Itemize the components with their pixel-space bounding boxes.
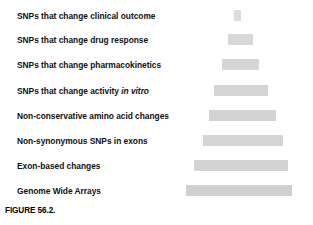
funnel-row-label-text: Non-conservative amino acid changes: [17, 111, 169, 121]
funnel-bar: [228, 34, 253, 45]
funnel-bar: [186, 185, 292, 196]
funnel-row-label: Exon-based changes: [17, 155, 100, 177]
funnel-row-label: SNPs that change clinical outcome: [17, 5, 156, 27]
funnel-row-label-text: Genome Wide Arrays: [17, 186, 101, 196]
figure-caption: FIGURE 56.2.: [5, 204, 55, 215]
funnel-row: Non-conservative amino acid changes: [0, 105, 313, 127]
funnel-row-label: SNPs that change activity in vitro: [17, 80, 149, 102]
funnel-row-label: SNPs that change drug response: [17, 29, 148, 51]
funnel-row: Exon-based changes: [0, 155, 313, 177]
funnel-row: Non-synonymous SNPs in exons: [0, 130, 313, 152]
funnel-bar: [203, 135, 283, 146]
funnel-row-label: Non-synonymous SNPs in exons: [17, 130, 148, 152]
figure-56-2: SNPs that change clinical outcome SNPs t…: [0, 0, 313, 225]
funnel-row-label: Genome Wide Arrays: [17, 180, 101, 202]
funnel-row-label: Non-conservative amino acid changes: [17, 105, 169, 127]
funnel-row-label-text: SNPs that change pharmacokinetics: [17, 60, 161, 70]
funnel-row-label: SNPs that change pharmacokinetics: [17, 54, 161, 76]
funnel-bar: [234, 10, 241, 21]
funnel-row-label-emphasis: in vitro: [121, 86, 149, 96]
funnel-row: SNPs that change activity in vitro: [0, 80, 313, 102]
funnel-row-label-text: SNPs that change clinical outcome: [17, 11, 156, 21]
funnel-bar: [222, 59, 259, 70]
funnel-row-label-text: Non-synonymous SNPs in exons: [17, 136, 148, 146]
funnel-row: SNPs that change pharmacokinetics: [0, 54, 313, 76]
funnel-bar: [209, 110, 276, 121]
funnel-row-label-text: SNPs that change drug response: [17, 35, 148, 45]
funnel-row: SNPs that change clinical outcome: [0, 5, 313, 27]
funnel-bar: [214, 85, 268, 96]
funnel-row: SNPs that change drug response: [0, 29, 313, 51]
funnel-row-label-text: Exon-based changes: [17, 161, 100, 171]
funnel-row: Genome Wide Arrays: [0, 180, 313, 202]
funnel-bar: [194, 160, 288, 171]
funnel-row-label-text: SNPs that change activity: [17, 86, 121, 96]
